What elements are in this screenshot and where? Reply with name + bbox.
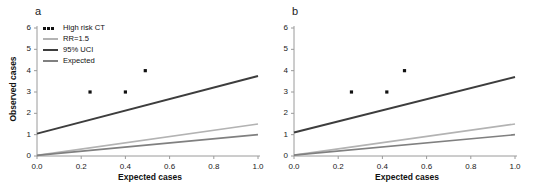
y-tick-label: 3 [262, 87, 288, 96]
x-tick-label: 0.0 [280, 162, 308, 171]
y-tick-label: 5 [262, 44, 288, 53]
legend-label: RR=1.5 [63, 34, 89, 44]
panel-a-legend: High risk CTRR=1.595% UCIExpected [42, 23, 105, 67]
panel-b: b Expected cases 01234560.00.20.40.60.81… [267, 0, 534, 194]
x-tick-label: 0.2 [67, 162, 95, 171]
x-tick-label: 0.4 [368, 162, 396, 171]
y-tick-label: 4 [262, 66, 288, 75]
figure-root: a Observed cases High risk CTRR=1.595% U… [0, 0, 534, 194]
data-point [385, 90, 388, 93]
y-tick-label: 6 [5, 23, 31, 32]
series-line [37, 76, 258, 134]
panel-b-x-axis-title: Expected cases [287, 172, 527, 182]
y-tick-label: 5 [5, 44, 31, 53]
legend-row: RR=1.5 [42, 34, 105, 44]
y-tick-label: 0 [262, 151, 288, 160]
legend-line-icon [42, 56, 59, 66]
x-tick-label: 1.0 [501, 162, 529, 171]
x-tick-label: 0.6 [413, 162, 441, 171]
y-tick-label: 1 [5, 130, 31, 139]
y-tick-label: 2 [262, 108, 288, 117]
x-tick-label: 0.8 [200, 162, 228, 171]
series-line [37, 124, 258, 155]
legend-label: High risk CT [63, 23, 105, 33]
series-line [294, 77, 515, 132]
series-line [37, 135, 258, 156]
series-line [294, 135, 515, 155]
x-tick-label: 0.0 [23, 162, 51, 171]
legend-dots-icon [42, 23, 59, 33]
data-point [403, 69, 406, 72]
x-tick-label: 0.6 [156, 162, 184, 171]
series-line [294, 124, 515, 155]
y-tick-label: 4 [5, 66, 31, 75]
y-tick-label: 3 [5, 87, 31, 96]
legend-row: High risk CT [42, 23, 105, 33]
y-tick-label: 0 [5, 151, 31, 160]
panel-a-x-axis-title: Expected cases [30, 172, 270, 182]
panel-a: a Observed cases High risk CTRR=1.595% U… [0, 0, 267, 194]
data-point [144, 69, 147, 72]
legend-label: Expected [63, 56, 95, 66]
legend-row: Expected [42, 56, 105, 66]
legend-label: 95% UCI [63, 45, 93, 55]
y-tick-label: 6 [262, 23, 288, 32]
legend-line-icon [42, 45, 59, 55]
data-point [88, 90, 91, 93]
x-tick-label: 0.8 [457, 162, 485, 171]
data-point [350, 90, 353, 93]
data-point [124, 90, 127, 93]
y-tick-label: 2 [5, 108, 31, 117]
x-tick-label: 0.4 [111, 162, 139, 171]
x-tick-label: 0.2 [324, 162, 352, 171]
legend-line-icon [42, 34, 59, 44]
legend-row: 95% UCI [42, 45, 105, 55]
y-tick-label: 1 [262, 130, 288, 139]
